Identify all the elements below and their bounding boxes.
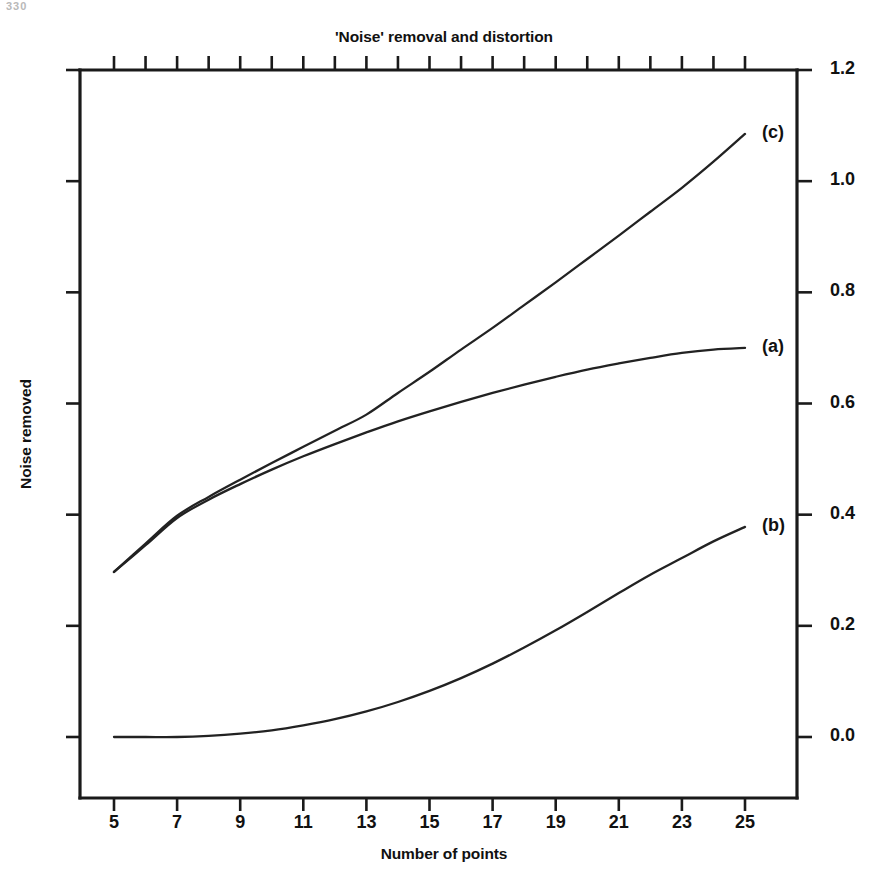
y-tick-label-0.6: 0.6: [830, 392, 888, 413]
y-tick-label-0.0: 0.0: [830, 725, 888, 746]
ticks-group: [66, 56, 812, 811]
curve-c: [114, 134, 745, 572]
plot-canvas: [0, 0, 888, 881]
data-curves-group: [114, 134, 745, 737]
axes-group: [80, 70, 797, 798]
x-tick-label-17: 17: [473, 812, 513, 833]
curve-label-b: (b): [762, 515, 785, 536]
y-tick-label-1.2: 1.2: [830, 58, 888, 79]
x-tick-label-21: 21: [599, 812, 639, 833]
x-tick-label-5: 5: [94, 812, 134, 833]
x-tick-label-15: 15: [410, 812, 450, 833]
x-tick-label-19: 19: [536, 812, 576, 833]
x-tick-label-13: 13: [346, 812, 386, 833]
x-tick-label-23: 23: [662, 812, 702, 833]
y-tick-label-0.8: 0.8: [830, 280, 888, 301]
x-tick-label-7: 7: [157, 812, 197, 833]
curve-label-a: (a): [762, 336, 784, 357]
x-tick-label-9: 9: [220, 812, 260, 833]
y-tick-label-1.0: 1.0: [830, 169, 888, 190]
y-axis-title: Noise removed: [17, 364, 35, 504]
x-tick-label-11: 11: [283, 812, 323, 833]
x-axis-title: Number of points: [0, 845, 888, 863]
curve-label-c: (c): [762, 122, 784, 143]
curve-b: [114, 527, 745, 737]
y-tick-label-0.4: 0.4: [830, 503, 888, 524]
y-tick-label-0.2: 0.2: [830, 614, 888, 635]
curve-a: [114, 348, 745, 572]
x-tick-label-25: 25: [725, 812, 765, 833]
figure-noise-removal-distortion: 330 'Noise' removal and distortion 57911…: [0, 0, 888, 881]
